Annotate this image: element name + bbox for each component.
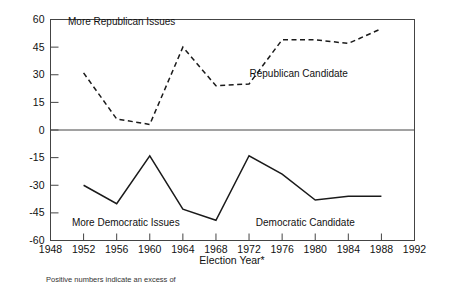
y-axis-labels: 604530150-15-30-45-60 <box>29 13 44 246</box>
x-axis-title: Election Year* <box>199 254 264 266</box>
series-line <box>84 156 382 220</box>
y-tick-label: 60 <box>33 13 45 25</box>
chart-annotations: More Republican IssuesRepublican Candida… <box>68 16 355 228</box>
y-axis-ticks <box>51 20 59 241</box>
chart-figure: 604530150-15-30-45-60 194819521956196019… <box>0 0 459 289</box>
y-tick-label: 45 <box>33 41 45 53</box>
x-tick-label: 1972 <box>237 243 261 255</box>
y-tick-label: -15 <box>29 151 44 163</box>
y-tick-label: -45 <box>29 206 44 218</box>
x-tick-label: 1948 <box>39 243 63 255</box>
y-tick-label: 30 <box>33 68 45 80</box>
annotation-more-republican-issues: More Republican Issues <box>68 16 175 27</box>
x-tick-label: 1968 <box>204 243 228 255</box>
x-tick-label: 1960 <box>138 243 162 255</box>
annotation-more-democratic-issues: More Democratic Issues <box>72 217 180 228</box>
x-tick-label: 1956 <box>105 243 129 255</box>
x-tick-label: 1976 <box>270 243 294 255</box>
annotation-republican-candidate: Republican Candidate <box>249 68 348 79</box>
x-tick-label: 1992 <box>403 243 427 255</box>
y-tick-label: -30 <box>29 179 44 191</box>
x-axis-ticks <box>51 234 415 241</box>
x-axis-labels: 1948195219561960196419681972197619801984… <box>39 243 427 255</box>
x-tick-label: 1952 <box>72 243 96 255</box>
chart-canvas: 604530150-15-30-45-60 194819521956196019… <box>0 0 459 289</box>
annotation-democratic-candidate: Democratic Candidate <box>256 217 355 228</box>
chart-footnote: Positive numbers indicate an excess of <box>46 275 177 284</box>
y-tick-label: 0 <box>39 124 45 136</box>
x-tick-label: 1984 <box>337 243 361 255</box>
y-tick-label: 15 <box>33 96 45 108</box>
x-tick-label: 1988 <box>370 243 394 255</box>
x-tick-label: 1964 <box>171 243 195 255</box>
data-series-layer <box>84 29 382 221</box>
x-tick-label: 1980 <box>304 243 328 255</box>
